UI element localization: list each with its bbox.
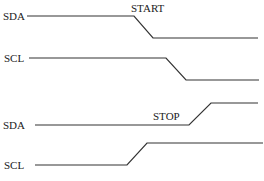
- timing-diagram: SDA START SCL SDA STOP SCL: [0, 0, 264, 181]
- scl-waveform-stop: [35, 143, 263, 165]
- sda-label-start: SDA: [3, 10, 25, 22]
- sda-waveform-stop: [35, 103, 258, 125]
- start-condition: SDA START SCL: [3, 2, 259, 80]
- stop-label: STOP: [153, 110, 180, 122]
- scl-waveform-start: [29, 58, 259, 80]
- sda-waveform-start: [27, 16, 258, 38]
- stop-condition: SDA STOP SCL: [3, 103, 263, 171]
- sda-label-stop: SDA: [3, 119, 25, 131]
- start-label: START: [131, 2, 165, 14]
- scl-label-start: SCL: [4, 52, 24, 64]
- scl-label-stop: SCL: [4, 159, 24, 171]
